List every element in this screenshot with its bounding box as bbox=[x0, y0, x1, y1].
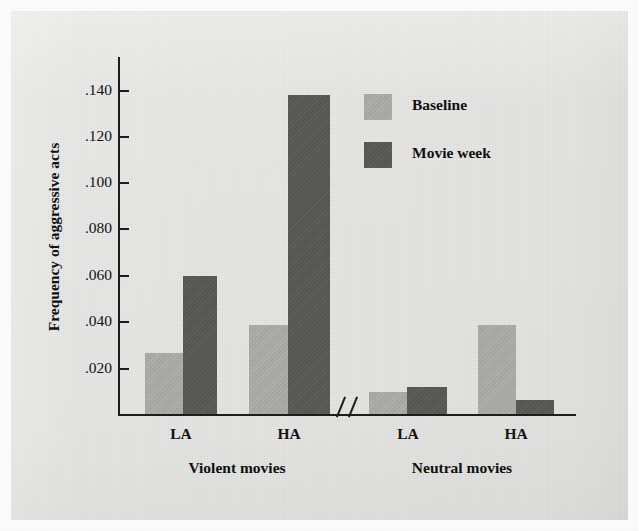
bar-violent-ha-movie-week bbox=[288, 95, 330, 414]
bar-neutral-la-movie-week bbox=[407, 387, 447, 414]
bar-chart-plot: .140 .120 .100 .080 .060 .040 .020 Frequ… bbox=[0, 0, 639, 531]
bar-neutral-la-baseline bbox=[369, 392, 407, 414]
y-tick-040 bbox=[120, 321, 129, 323]
legend-label-movie-week: Movie week bbox=[412, 144, 491, 162]
bar-violent-la-baseline bbox=[145, 353, 183, 414]
bar-violent-la-movie-week bbox=[183, 276, 217, 414]
group-label-violent-movies: Violent movies bbox=[127, 459, 347, 477]
bar-violent-ha-baseline bbox=[249, 325, 288, 414]
y-tick-100 bbox=[120, 182, 129, 184]
legend-label-baseline: Baseline bbox=[412, 96, 467, 114]
bar-neutral-ha-movie-week bbox=[516, 400, 554, 414]
y-tick-080 bbox=[120, 228, 129, 230]
y-tick-020 bbox=[120, 368, 129, 370]
x-label-violent-la: LA bbox=[141, 425, 221, 443]
y-tick-140 bbox=[120, 90, 129, 92]
bar-neutral-ha-baseline bbox=[478, 325, 516, 414]
axis-break-mark bbox=[336, 396, 362, 420]
legend-swatch-movie-week bbox=[364, 142, 392, 168]
legend-swatch-baseline bbox=[364, 94, 392, 120]
x-label-neutral-la: LA bbox=[368, 425, 448, 443]
x-label-violent-ha: HA bbox=[249, 425, 329, 443]
y-axis-title: Frequency of aggressive acts bbox=[45, 87, 63, 387]
group-label-neutral-movies: Neutral movies bbox=[352, 459, 572, 477]
y-axis-line bbox=[118, 57, 120, 416]
figure-container: .140 .120 .100 .080 .060 .040 .020 Frequ… bbox=[0, 0, 639, 531]
y-tick-120 bbox=[120, 136, 129, 138]
y-tick-060 bbox=[120, 275, 129, 277]
x-label-neutral-ha: HA bbox=[476, 425, 556, 443]
